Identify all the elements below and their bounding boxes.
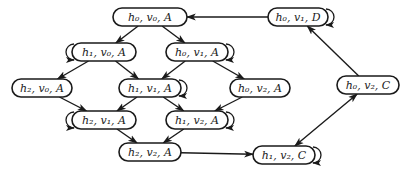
edge-h2v2A-to-h1v2C — [181, 153, 253, 155]
state-node-h1v2C: h₁, v₂, C — [253, 146, 315, 164]
edge-h1v0A-to-h1v1A — [116, 61, 139, 79]
state-graph: h₀, v₀, Ah₀, v₁, Dh₁, v₀, Ah₀, v₁, Ah₂, … — [0, 0, 410, 174]
nodes-layer: h₀, v₀, Ah₀, v₁, Dh₁, v₀, Ah₀, v₁, Ah₂, … — [12, 8, 399, 164]
edge-h2v0A-to-h2v1A — [59, 97, 86, 111]
node-label: h₀, v₁, A — [175, 46, 219, 59]
node-label: h₂, v₂, A — [128, 146, 172, 159]
edge-h2v1A-to-h2v2A — [117, 129, 137, 143]
edge-h0v0A-to-h1v0A — [116, 26, 138, 43]
state-node-h0v1D: h₀, v₁, D — [268, 8, 328, 26]
node-label: h₁, v₀, A — [82, 46, 126, 59]
edge-h1v1A-to-h1v2A — [163, 97, 184, 111]
self-loops-layer — [66, 9, 334, 163]
edge-h0v2A-to-h1v2A — [215, 97, 243, 111]
node-label: h₀, v₁, D — [276, 11, 321, 24]
edge-h0v1A-to-h1v1A — [162, 61, 186, 79]
edge-h0v1A-to-h0v2A — [213, 61, 245, 79]
edge-h1v0A-to-h2v0A — [58, 61, 89, 79]
edges-layer — [58, 17, 359, 154]
edge-h1v2A-to-h2v2A — [163, 129, 184, 143]
node-label: h₀, v₂, C — [346, 79, 391, 92]
edge-h1v1A-to-h2v1A — [117, 97, 137, 111]
state-node-h0v1A: h₀, v₁, A — [166, 43, 228, 61]
node-label: h₂, v₁, A — [82, 114, 126, 127]
state-node-h2v0A: h₂, v₀, A — [12, 79, 72, 97]
state-node-h0v0A: h₀, v₀, A — [113, 8, 187, 26]
node-label: h₀, v₂, A — [238, 82, 282, 95]
state-node-h1v1A: h₁, v₁, A — [119, 79, 181, 97]
node-label: h₂, v₀, A — [20, 82, 64, 95]
state-node-h1v0A: h₁, v₀, A — [72, 43, 136, 61]
node-label: h₁, v₂, A — [175, 114, 219, 127]
state-node-h1v2A: h₁, v₂, A — [166, 111, 228, 129]
edge-h0v0A-to-h0v1A — [162, 26, 185, 43]
node-label: h₀, v₀, A — [128, 11, 172, 24]
node-label: h₁, v₁, A — [128, 82, 172, 95]
node-label: h₁, v₂, C — [262, 149, 307, 162]
edge-h0v2C-to-h0v1D — [307, 26, 358, 76]
state-node-h2v1A: h₂, v₁, A — [72, 111, 136, 129]
state-node-h2v2A: h₂, v₂, A — [119, 143, 181, 161]
state-node-h0v2C: h₀, v₂, C — [337, 76, 399, 94]
edge-h1v2C-to-h0v2C — [295, 94, 357, 146]
state-node-h0v2A: h₀, v₂, A — [230, 79, 290, 97]
